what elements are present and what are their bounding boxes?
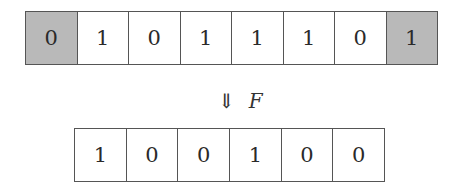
output-cell: 1 — [75, 129, 126, 181]
input-bit-row: 0 1 0 1 1 1 0 1 — [25, 11, 438, 65]
double-down-arrow-icon: ⇓ — [218, 89, 235, 113]
output-bit-row: 1 0 0 1 0 0 — [74, 128, 385, 182]
output-cell: 0 — [332, 129, 384, 181]
input-cell-boundary-right: 1 — [386, 12, 438, 64]
transform-operator: ⇓ F — [218, 88, 263, 114]
input-cell: 0 — [128, 12, 180, 64]
operator-label: F — [249, 89, 263, 113]
input-cell: 1 — [180, 12, 232, 64]
output-cell: 1 — [229, 129, 281, 181]
input-cell: 1 — [283, 12, 335, 64]
output-cell: 0 — [177, 129, 229, 181]
input-cell: 0 — [334, 12, 386, 64]
output-cell: 0 — [281, 129, 333, 181]
input-cell: 1 — [77, 12, 129, 64]
output-cell: 0 — [126, 129, 178, 181]
input-cell: 1 — [231, 12, 283, 64]
input-cell-boundary-left: 0 — [26, 12, 77, 64]
